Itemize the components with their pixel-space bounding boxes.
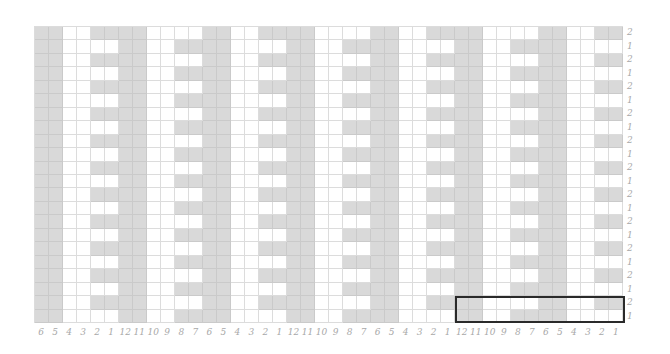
chart-cell xyxy=(105,135,119,148)
chart-cell xyxy=(329,202,343,215)
chart-cell xyxy=(343,188,357,201)
chart-cell xyxy=(287,310,301,323)
chart-cell xyxy=(371,81,385,94)
chart-cell xyxy=(469,229,483,242)
chart-cell xyxy=(301,67,315,80)
chart-cell xyxy=(133,283,147,296)
chart-cell xyxy=(609,54,623,67)
chart-cell xyxy=(203,162,217,175)
chart-cell xyxy=(161,256,175,269)
chart-cell xyxy=(49,108,63,121)
chart-cell xyxy=(217,81,231,94)
row-label: 2 xyxy=(627,134,647,148)
chart-cell xyxy=(35,81,49,94)
chart-cell xyxy=(231,148,245,161)
chart-cell xyxy=(35,148,49,161)
chart-cell xyxy=(63,135,77,148)
chart-cell xyxy=(609,162,623,175)
chart-cell xyxy=(497,175,511,188)
chart-cell xyxy=(469,67,483,80)
chart-cell xyxy=(441,162,455,175)
chart-cell xyxy=(441,229,455,242)
chart-cell xyxy=(357,162,371,175)
chart-cell xyxy=(217,242,231,255)
chart-cell xyxy=(91,108,105,121)
chart-cell xyxy=(469,175,483,188)
chart-cell xyxy=(469,215,483,228)
chart-cell xyxy=(119,54,133,67)
chart-cell xyxy=(553,54,567,67)
chart-cell xyxy=(273,256,287,269)
chart-cell xyxy=(525,269,539,282)
chart-cell xyxy=(609,188,623,201)
chart-cell xyxy=(245,256,259,269)
chart-cell xyxy=(357,242,371,255)
chart-cell xyxy=(175,94,189,107)
chart-cell xyxy=(497,215,511,228)
chart-cell xyxy=(189,27,203,40)
chart-cell xyxy=(133,81,147,94)
chart-cell xyxy=(133,40,147,53)
chart-cell xyxy=(133,162,147,175)
chart-cell xyxy=(63,27,77,40)
chart-cell xyxy=(413,135,427,148)
chart-cell xyxy=(287,40,301,53)
chart-cell xyxy=(595,135,609,148)
chart-cell xyxy=(455,108,469,121)
chart-cell xyxy=(35,40,49,53)
chart-cell xyxy=(273,67,287,80)
chart-cell xyxy=(413,215,427,228)
chart-cell xyxy=(595,162,609,175)
chart-cell xyxy=(553,40,567,53)
chart-cell xyxy=(161,54,175,67)
chart-cell xyxy=(357,175,371,188)
chart-cell xyxy=(413,283,427,296)
chart-cell xyxy=(105,148,119,161)
chart-cell xyxy=(231,296,245,309)
chart-cell xyxy=(147,67,161,80)
chart-cell xyxy=(231,283,245,296)
chart-cell xyxy=(49,67,63,80)
chart-cell xyxy=(553,229,567,242)
chart-cell xyxy=(511,188,525,201)
chart-cell xyxy=(469,162,483,175)
chart-cell xyxy=(91,40,105,53)
row-label: 1 xyxy=(627,256,647,270)
chart-cell xyxy=(427,215,441,228)
chart-cell xyxy=(385,135,399,148)
chart-cell xyxy=(245,215,259,228)
chart-cell xyxy=(91,202,105,215)
chart-cell xyxy=(497,40,511,53)
stitch-label: 9 xyxy=(328,327,342,337)
stitch-label: 5 xyxy=(553,327,567,337)
chart-cell xyxy=(147,269,161,282)
chart-cell xyxy=(413,67,427,80)
chart-cell xyxy=(399,81,413,94)
chart-cell xyxy=(483,121,497,134)
chart-cell xyxy=(77,108,91,121)
chart-cell xyxy=(441,202,455,215)
chart-cell xyxy=(483,135,497,148)
chart-cell xyxy=(315,162,329,175)
row-label: 2 xyxy=(627,242,647,256)
chart-cell xyxy=(609,229,623,242)
chart-cell xyxy=(357,148,371,161)
chart-cell xyxy=(175,215,189,228)
chart-cell xyxy=(287,27,301,40)
chart-cell xyxy=(441,108,455,121)
chart-cell xyxy=(399,256,413,269)
chart-cell xyxy=(77,121,91,134)
chart-cell xyxy=(147,256,161,269)
chart-cell xyxy=(399,67,413,80)
chart-cell xyxy=(77,229,91,242)
chart-cell xyxy=(147,296,161,309)
chart-cell xyxy=(567,121,581,134)
chart-cell xyxy=(63,81,77,94)
chart-cell xyxy=(539,256,553,269)
chart-cell xyxy=(49,283,63,296)
chart-cell xyxy=(595,27,609,40)
chart-cell xyxy=(441,67,455,80)
chart-cell xyxy=(413,121,427,134)
chart-cell xyxy=(455,40,469,53)
stitch-label: 10 xyxy=(146,327,160,337)
